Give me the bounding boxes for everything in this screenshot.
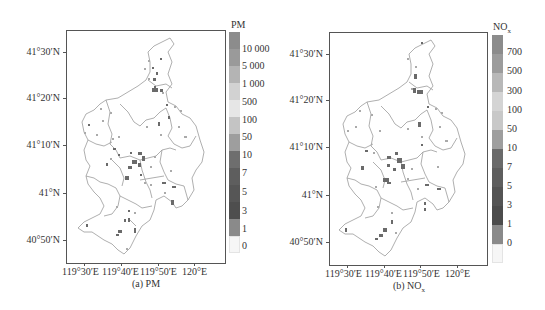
legend-title-nox: NOx: [493, 21, 511, 35]
legend-tick: 10: [507, 142, 517, 153]
y-label: 41°10′N: [2, 139, 60, 150]
y-label: 41°N: [265, 189, 323, 200]
y-label: 40°50′N: [265, 236, 323, 247]
x-label: 120°E: [182, 266, 207, 277]
legend-tick: 300: [507, 85, 522, 96]
y-label: 41°30′N: [265, 48, 323, 59]
legend-tick: 500: [242, 96, 257, 107]
y-label: 41°20′N: [2, 92, 60, 103]
panel-nox: 41°30′N 41°20′N 41°10′N 41°N 40°50′N 119…: [272, 0, 545, 310]
x-label: 119°40′E: [102, 266, 139, 277]
y-label: 41°10′N: [265, 141, 323, 152]
legend-tick: 3: [507, 199, 512, 210]
panel-pm: 41°30′N 41°20′N 41°10′N 41°N 40°50′N 119…: [0, 0, 272, 310]
y-label: 41°N: [2, 187, 60, 198]
colorbar-nox: [492, 35, 503, 263]
y-label: 41°30′N: [2, 46, 60, 57]
legend-tick: 7: [242, 167, 247, 178]
legend-tick: 1: [507, 218, 512, 229]
x-label: 120°E: [445, 268, 470, 279]
x-label: 119°30′E: [62, 266, 99, 277]
colorbar-pm: [229, 32, 240, 253]
legend-tick: 5: [507, 180, 512, 191]
caption-nox: (b) NOx: [329, 280, 489, 294]
legend-tick: 10: [242, 149, 252, 160]
x-label: 119°50′E: [140, 266, 177, 277]
legend-title-pm: PM: [231, 19, 245, 30]
x-label: 119°30′E: [325, 268, 362, 279]
legend-tick: 700: [507, 46, 522, 57]
legend-tick: 50: [242, 131, 252, 142]
legend-tick: 100: [242, 114, 257, 125]
legend-tick: 100: [507, 104, 522, 115]
legend-tick: 5: [242, 186, 247, 197]
x-label: 119°40′E: [365, 268, 402, 279]
caption-pm: (a) PM: [66, 278, 226, 289]
x-label: 119°50′E: [403, 268, 440, 279]
map-nox: [272, 0, 545, 310]
legend-tick: 1: [242, 223, 247, 234]
legend-tick: 3: [242, 205, 247, 216]
legend-tick: 7: [507, 161, 512, 172]
y-label: 41°20′N: [265, 94, 323, 105]
legend-tick: 0: [242, 240, 247, 251]
legend-tick: 500: [507, 65, 522, 76]
y-label: 40°50′N: [2, 234, 60, 245]
legend-tick: 0: [507, 237, 512, 248]
legend-tick: 1 000: [242, 78, 265, 89]
legend-tick: 50: [507, 123, 517, 134]
legend-tick: 5 000: [242, 60, 265, 71]
